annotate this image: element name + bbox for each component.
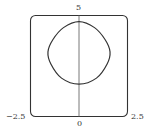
x-right-tick-label: 2.5 — [131, 113, 144, 121]
y-top-tick-label: 5 — [76, 4, 81, 12]
x-center-tick-label: 0 — [77, 120, 82, 128]
x-left-tick-label: −2.5 — [6, 113, 25, 121]
